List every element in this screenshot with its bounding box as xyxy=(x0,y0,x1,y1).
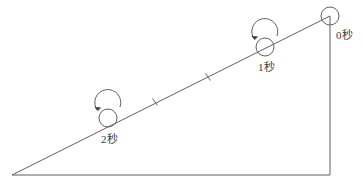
inclined-plane-diagram xyxy=(0,0,363,190)
ball-0-time-label: 0秒 xyxy=(336,30,354,41)
incline-hypotenuse-line xyxy=(12,16,330,175)
tick-mark-upper xyxy=(206,74,211,81)
ball-1-circle xyxy=(256,38,274,56)
ball-2-circle xyxy=(99,109,117,127)
diagram-canvas: 0秒 1秒 2秒 xyxy=(0,0,363,190)
ball-2-time-label: 2秒 xyxy=(101,134,119,145)
ball-1-time-label: 1秒 xyxy=(258,62,276,73)
